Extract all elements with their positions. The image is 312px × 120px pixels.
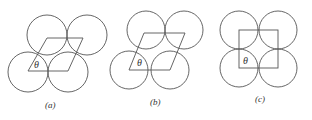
panel-a-caption: (a) <box>45 100 56 110</box>
panel-a-angle-label: θ <box>34 59 39 70</box>
panel-c-shapes <box>220 11 297 87</box>
panel-a-shapes <box>8 15 107 92</box>
panel-b-shapes <box>110 11 203 89</box>
panel-c-caption: (c) <box>255 94 265 104</box>
panel-b-caption: (b) <box>150 97 161 107</box>
panel-b-angle-label: θ <box>137 57 142 68</box>
panel-c-angle-label: θ <box>243 55 248 66</box>
